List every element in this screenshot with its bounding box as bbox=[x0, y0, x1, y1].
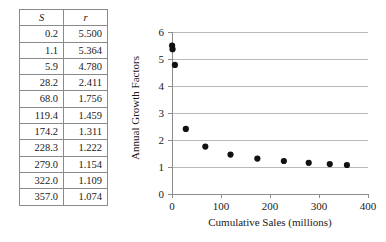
cell-r: 1.756 bbox=[64, 91, 108, 107]
cell-r: 5.364 bbox=[64, 42, 108, 58]
data-point bbox=[202, 143, 208, 149]
x-axis-title: Cumulative Sales (millions) bbox=[208, 216, 332, 229]
table-header: S r bbox=[20, 10, 108, 26]
x-tick-label: 200 bbox=[262, 200, 279, 212]
data-point bbox=[183, 126, 189, 132]
cell-s: 174.2 bbox=[20, 124, 64, 140]
data-point bbox=[344, 162, 350, 168]
y-tick-label: 0 bbox=[159, 188, 165, 200]
data-point bbox=[227, 152, 233, 158]
x-tick-label: 400 bbox=[360, 200, 377, 212]
table-row: 174.21.311 bbox=[20, 124, 108, 140]
y-tick-label: 4 bbox=[159, 80, 165, 92]
scatter-chart: 0123456 0100200300400 Cumulative Sales (… bbox=[128, 8, 380, 236]
cell-r: 1.311 bbox=[64, 124, 108, 140]
y-tick-label: 1 bbox=[159, 161, 165, 173]
y-tick-label: 2 bbox=[159, 134, 165, 146]
table-row: 28.22.411 bbox=[20, 75, 108, 91]
cell-s: 119.4 bbox=[20, 107, 64, 123]
data-point bbox=[306, 160, 312, 166]
sales-growth-table: S r 0.25.5001.15.3645.94.78028.22.41168.… bbox=[19, 9, 108, 206]
data-table-container: S r 0.25.5001.15.3645.94.78028.22.41168.… bbox=[19, 9, 108, 206]
cell-r: 1.074 bbox=[64, 189, 108, 205]
cell-r: 1.222 bbox=[64, 140, 108, 156]
table-row: 5.94.780 bbox=[20, 58, 108, 74]
cell-r: 1.109 bbox=[64, 172, 108, 188]
grid-lines bbox=[172, 32, 368, 167]
cell-s: 357.0 bbox=[20, 189, 64, 205]
y-tick-label: 5 bbox=[159, 53, 165, 65]
cell-s: 279.0 bbox=[20, 156, 64, 172]
data-point bbox=[281, 158, 287, 164]
cell-s: 1.1 bbox=[20, 42, 64, 58]
y-axis-ticks: 0123456 bbox=[159, 26, 173, 200]
cell-s: 228.3 bbox=[20, 140, 64, 156]
column-header-r: r bbox=[64, 10, 108, 26]
cell-r: 1.459 bbox=[64, 107, 108, 123]
cell-r: 1.154 bbox=[64, 156, 108, 172]
table-row: 0.25.500 bbox=[20, 26, 108, 42]
data-point bbox=[172, 62, 178, 68]
table-body: 0.25.5001.15.3645.94.78028.22.41168.01.7… bbox=[20, 26, 108, 205]
cell-s: 322.0 bbox=[20, 172, 64, 188]
data-point bbox=[169, 46, 175, 52]
cell-r: 2.411 bbox=[64, 75, 108, 91]
x-tick-label: 0 bbox=[169, 200, 175, 212]
y-axis-title: Annual Growth Factors bbox=[129, 56, 141, 160]
cell-r: 5.500 bbox=[64, 26, 108, 42]
data-point bbox=[254, 156, 260, 162]
table-header-row: S r bbox=[20, 10, 108, 26]
x-tick-label: 300 bbox=[311, 200, 328, 212]
table-row: 1.15.364 bbox=[20, 42, 108, 58]
x-axis-ticks: 0100200300400 bbox=[169, 194, 377, 212]
table-row: 279.01.154 bbox=[20, 156, 108, 172]
table-row: 228.31.222 bbox=[20, 140, 108, 156]
column-header-s: S bbox=[20, 10, 64, 26]
cell-s: 5.9 bbox=[20, 58, 64, 74]
table-row: 322.01.109 bbox=[20, 172, 108, 188]
table-row: 357.01.074 bbox=[20, 189, 108, 205]
cell-s: 28.2 bbox=[20, 75, 64, 91]
data-point bbox=[327, 161, 333, 167]
table-row: 68.01.756 bbox=[20, 91, 108, 107]
y-tick-label: 3 bbox=[159, 107, 165, 119]
cell-s: 68.0 bbox=[20, 91, 64, 107]
cell-r: 4.780 bbox=[64, 58, 108, 74]
chart-svg: 0123456 0100200300400 Cumulative Sales (… bbox=[128, 8, 380, 236]
table-row: 119.41.459 bbox=[20, 107, 108, 123]
cell-s: 0.2 bbox=[20, 26, 64, 42]
y-tick-label: 6 bbox=[159, 26, 165, 38]
x-tick-label: 100 bbox=[213, 200, 230, 212]
data-points bbox=[169, 42, 350, 168]
